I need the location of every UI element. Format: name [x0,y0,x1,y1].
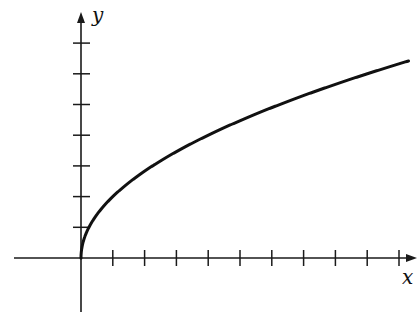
x-axis-label: x [402,265,413,289]
y-axis-arrow-icon [77,12,85,23]
y-axis-label: y [91,3,104,27]
graph: x y [0,0,420,313]
x-axis-arrow-icon [406,254,417,262]
function-curve [81,61,409,258]
